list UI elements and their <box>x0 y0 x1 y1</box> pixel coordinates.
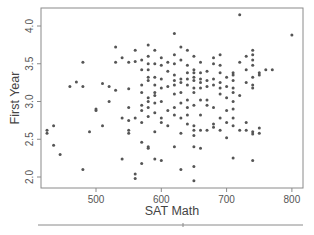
data-point <box>140 91 143 94</box>
data-point <box>140 104 143 107</box>
data-point <box>46 132 49 135</box>
data-point <box>232 100 235 103</box>
data-point <box>121 117 124 120</box>
data-point <box>199 81 202 84</box>
data-point <box>251 83 254 86</box>
data-point <box>166 61 169 64</box>
data-point <box>238 129 241 132</box>
data-point <box>140 59 143 62</box>
data-point <box>140 83 143 86</box>
data-point <box>127 119 130 122</box>
data-point <box>81 168 84 171</box>
data-point <box>232 108 235 111</box>
data-point <box>173 53 176 56</box>
data-point <box>108 100 111 103</box>
data-point <box>153 62 156 65</box>
data-point <box>206 99 209 102</box>
data-point <box>153 91 156 94</box>
data-point <box>160 77 163 80</box>
data-point <box>95 108 98 111</box>
data-point <box>140 162 143 165</box>
data-point <box>192 165 195 168</box>
data-point <box>290 34 293 37</box>
data-point <box>160 117 163 120</box>
data-point <box>147 106 150 109</box>
data-point <box>160 64 163 67</box>
data-point <box>166 124 169 127</box>
data-point <box>219 64 222 67</box>
x-axis-title: SAT Math <box>145 204 199 218</box>
data-point <box>46 129 49 132</box>
data-point <box>219 71 222 74</box>
data-point <box>179 46 182 49</box>
data-point <box>199 86 202 89</box>
data-point <box>271 68 274 71</box>
data-point <box>114 89 117 92</box>
data-point <box>225 109 228 112</box>
data-point <box>121 157 124 160</box>
data-point <box>173 74 176 77</box>
data-point <box>199 99 202 102</box>
data-point <box>179 81 182 84</box>
data-point <box>251 76 254 79</box>
data-point <box>52 144 55 147</box>
data-point <box>192 79 195 82</box>
data-point <box>179 102 182 105</box>
data-point <box>147 43 150 46</box>
data-point <box>147 96 150 99</box>
x-tick-label: 500 <box>88 194 105 205</box>
data-point <box>127 87 130 90</box>
data-point <box>173 114 176 117</box>
data-point <box>160 121 163 124</box>
data-point <box>225 121 228 124</box>
data-point <box>114 46 117 49</box>
data-point <box>225 96 228 99</box>
data-point <box>140 121 143 124</box>
data-point <box>179 77 182 80</box>
data-point <box>245 121 248 124</box>
data-point <box>134 117 137 120</box>
data-point <box>179 59 182 62</box>
data-point <box>75 80 78 83</box>
data-point <box>134 173 137 176</box>
data-point <box>153 94 156 97</box>
data-point <box>206 129 209 132</box>
data-point <box>173 106 176 109</box>
data-point <box>192 145 195 148</box>
data-point <box>258 126 261 129</box>
plot-frame <box>41 8 303 188</box>
data-point <box>199 71 202 74</box>
data-point <box>232 117 235 120</box>
data-point <box>179 117 182 120</box>
data-point <box>186 106 189 109</box>
data-point <box>219 92 222 95</box>
data-point <box>186 49 189 52</box>
data-point <box>81 85 84 88</box>
data-point <box>101 82 104 85</box>
data-point <box>121 56 124 59</box>
data-point <box>173 62 176 65</box>
data-point <box>199 147 202 150</box>
data-point <box>192 76 195 79</box>
data-point <box>186 99 189 102</box>
data-point <box>232 91 235 94</box>
data-point <box>147 68 150 71</box>
data-point <box>212 123 215 126</box>
data-point <box>134 177 137 180</box>
data-point <box>192 55 195 58</box>
y-tick-label: 4.0 <box>24 19 35 33</box>
data-point <box>173 92 176 95</box>
data-point <box>153 49 156 52</box>
x-tick-label: 800 <box>284 194 301 205</box>
y-tick-label: 3.0 <box>24 94 35 108</box>
data-point <box>127 129 130 132</box>
y-axis: 2.02.53.03.54.0 <box>24 19 41 184</box>
data-point <box>147 79 150 82</box>
data-point <box>206 70 209 73</box>
data-point <box>192 104 195 107</box>
y-axis-title: First Year <box>8 72 22 125</box>
data-point <box>245 68 248 71</box>
data-point <box>147 62 150 65</box>
data-point <box>206 79 209 82</box>
data-point <box>206 85 209 88</box>
